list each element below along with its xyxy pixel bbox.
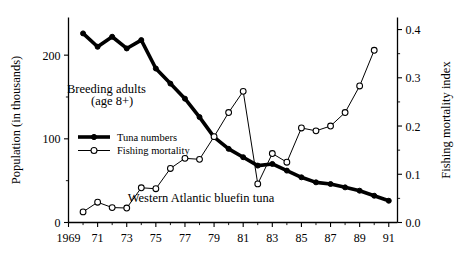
data-point-tuna-1970: [81, 31, 86, 36]
data-point-mortality-1979: [211, 134, 217, 140]
y-left-tick-label-200: 200: [43, 49, 61, 63]
data-point-mortality-1983: [269, 151, 275, 157]
data-point-tuna-1988: [343, 185, 348, 190]
data-point-tuna-1971: [95, 44, 100, 49]
legend-marker-filled-circle: [91, 134, 96, 139]
y-right-tick-label-0.3: 0.3: [406, 71, 421, 85]
y-axis-left-title: Population (in thousands): [9, 56, 23, 184]
tuna-population-mortality-chart: 196971737577798183858789910100200Populat…: [0, 0, 460, 266]
data-point-mortality-1990: [371, 47, 377, 53]
data-point-mortality-1986: [313, 128, 319, 134]
legend-label-0: Tuna numbers: [117, 132, 177, 143]
y-axis-right-title: Fishing mortality index: [439, 61, 453, 179]
x-tick-label-1983: 83: [266, 231, 278, 245]
data-point-mortality-1971: [95, 199, 101, 205]
annotations: Breeding adults(age 8+)Western Atlantic …: [67, 82, 275, 206]
data-point-mortality-1978: [197, 156, 203, 162]
data-point-tuna-1986: [313, 180, 318, 185]
data-point-tuna-1972: [110, 34, 115, 39]
data-point-tuna-1981: [241, 155, 246, 160]
data-point-tuna-1989: [357, 188, 362, 193]
chart-legend: Tuna numbersFishing mortality: [78, 132, 190, 157]
data-point-mortality-1989: [357, 83, 363, 89]
annotation-species-caption: Western Atlantic bluefin tuna: [128, 191, 275, 205]
data-point-tuna-1974: [139, 38, 144, 43]
data-point-tuna-1980: [226, 146, 231, 151]
x-tick-label-1989: 89: [354, 231, 366, 245]
data-point-mortality-1982: [255, 181, 261, 187]
data-point-tuna-1973: [124, 46, 129, 51]
x-tick-label-1975: 75: [150, 231, 162, 245]
data-point-tuna-1976: [168, 81, 173, 86]
data-point-mortality-1977: [182, 155, 188, 161]
data-point-mortality-1984: [284, 159, 290, 165]
x-tick-label-1979: 79: [208, 231, 220, 245]
y-right-tick-label-0.4: 0.4: [406, 23, 421, 37]
data-point-mortality-1987: [328, 123, 334, 129]
x-tick-label-1969: 1969: [57, 231, 81, 245]
legend-label-1: Fishing mortality: [117, 145, 190, 156]
data-point-tuna-1985: [299, 175, 304, 180]
data-point-mortality-1970: [80, 209, 86, 215]
x-tick-label-1971: 71: [92, 231, 104, 245]
legend-marker-open-circle: [91, 148, 97, 154]
x-tick-label-1981: 81: [237, 231, 249, 245]
data-point-tuna-1977: [182, 96, 187, 101]
data-point-tuna-1984: [284, 168, 289, 173]
chart-container: 196971737577798183858789910100200Populat…: [0, 0, 460, 266]
data-point-mortality-1976: [168, 166, 174, 172]
series-line-tuna-numbers: [83, 33, 389, 200]
data-point-tuna-1983: [270, 161, 275, 166]
y-right-tick-label-0.2: 0.2: [406, 120, 421, 134]
annotation-breeding-adults-age: (age 8+): [91, 94, 133, 108]
data-point-mortality-1981: [240, 88, 246, 94]
x-tick-label-1985: 85: [295, 231, 307, 245]
y-right-tick-label-0.1: 0.1: [406, 168, 421, 182]
data-point-mortality-1988: [342, 110, 348, 116]
data-point-tuna-1975: [153, 66, 158, 71]
data-series: [80, 31, 391, 215]
data-point-tuna-1987: [328, 182, 333, 187]
data-point-tuna-1990: [372, 193, 377, 198]
y-left-tick-label-0: 0: [55, 216, 61, 230]
x-tick-label-1991: 91: [383, 231, 395, 245]
data-point-mortality-1972: [109, 205, 115, 211]
data-point-mortality-1973: [124, 205, 130, 211]
data-point-tuna-1991: [386, 198, 391, 203]
x-tick-label-1973: 73: [121, 231, 133, 245]
y-left-tick-label-100: 100: [43, 132, 61, 146]
data-point-tuna-1978: [197, 115, 202, 120]
data-point-mortality-1974: [138, 185, 144, 191]
x-tick-label-1987: 87: [325, 231, 337, 245]
data-point-mortality-1980: [226, 110, 232, 116]
axis-labels: 196971737577798183858789910100200Populat…: [9, 23, 453, 244]
x-tick-label-1977: 77: [179, 231, 191, 245]
y-right-tick-label-0.0: 0.0: [406, 216, 421, 230]
data-point-tuna-1982: [255, 163, 260, 168]
data-point-mortality-1985: [299, 125, 305, 131]
